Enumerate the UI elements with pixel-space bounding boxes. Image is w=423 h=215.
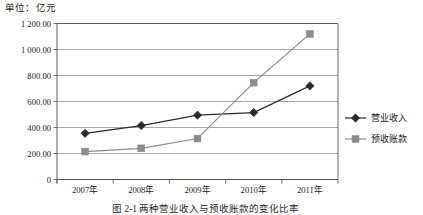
y-tick-label: 600.00 xyxy=(27,97,51,107)
y-tick-label: 400.00 xyxy=(27,123,51,133)
series-data-point xyxy=(137,121,145,129)
series-data-point xyxy=(81,129,89,137)
legend-group: 营业收入预收账款 xyxy=(345,112,407,144)
x-tick-label: 2011年 xyxy=(297,184,323,195)
series-line xyxy=(85,34,310,152)
series-line xyxy=(85,86,310,133)
x-tick-label: 2010年 xyxy=(241,184,267,195)
y-tick-label: 1 200.00 xyxy=(21,19,51,29)
y-tick-labels-group: 0200.00400.00600.00800.001 000.001 200.0… xyxy=(21,19,51,185)
series-data-point xyxy=(138,145,145,152)
line-chart-svg: 0200.00400.00600.00800.001 000.001 200.0… xyxy=(0,0,423,215)
x-axis-group xyxy=(57,180,338,184)
chart-figure: 单位：亿元 0200.00400.00600.00800.001 000.001… xyxy=(0,0,423,215)
x-tick-labels-group: 2007年2008年2009年2010年2011年 xyxy=(72,184,323,195)
legend-label: 营业收入 xyxy=(371,112,407,123)
y-tick-marks-group xyxy=(54,24,58,180)
series-data-point xyxy=(250,79,257,86)
y-tick-label: 800.00 xyxy=(27,71,51,81)
figure-caption-strip: 图 2-1 两种营业收入与预收账款的变化比率 xyxy=(0,204,423,215)
legend-marker xyxy=(351,114,359,122)
series-data-point xyxy=(82,148,89,155)
y-tick-label: 1 000.00 xyxy=(21,45,51,55)
gridlines-group xyxy=(57,24,338,184)
figure-caption: 图 2-1 两种营业收入与预收账款的变化比率 xyxy=(112,204,299,215)
legend-label: 预收账款 xyxy=(371,133,407,144)
x-tick-label: 2007年 xyxy=(72,184,98,195)
legend-marker xyxy=(352,136,359,143)
series-data-point xyxy=(193,111,201,119)
x-tick-label: 2008年 xyxy=(128,184,154,195)
series-data-point xyxy=(250,108,258,116)
series-data-point xyxy=(194,135,201,142)
series-data-point xyxy=(307,31,314,38)
series-data-point xyxy=(306,82,314,90)
x-tick-label: 2009年 xyxy=(184,184,210,195)
y-tick-label: 200.00 xyxy=(27,149,51,159)
y-tick-label: 0 xyxy=(47,175,51,185)
